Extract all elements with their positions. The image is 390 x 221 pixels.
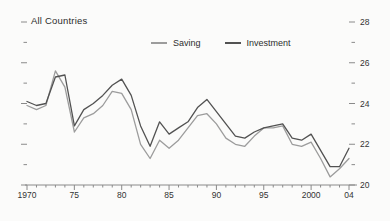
chart-title: All Countries [31,15,87,26]
investment-line-swatch-icon [225,42,241,44]
legend-label-investment: Investment [247,38,291,48]
x-tick-label: 80 [117,190,127,200]
figure-all-countries: 197075808590952000042022242628 All Count… [0,0,390,221]
x-tick-label: 04 [344,190,354,200]
x-tick-label: 1970 [18,190,37,200]
legend-item-saving: Saving [151,38,201,48]
y-tick-label: 28 [360,17,370,27]
x-tick-label: 90 [212,190,222,200]
y-tick-label: 20 [360,180,370,190]
y-tick-label: 26 [360,58,370,68]
saving-line-swatch-icon [151,42,167,44]
y-tick-label: 22 [360,139,370,149]
legend-item-investment: Investment [225,38,291,48]
legend: Saving Investment [151,38,291,48]
series-line-investment [27,75,349,167]
legend-label-saving: Saving [173,38,201,48]
x-tick-label: 75 [70,190,80,200]
x-tick-label: 85 [164,190,174,200]
chart-canvas: 197075808590952000042022242628 [0,0,390,221]
x-tick-label: 2000 [302,190,321,200]
y-tick-label: 24 [360,99,370,109]
x-tick-label: 95 [259,190,269,200]
